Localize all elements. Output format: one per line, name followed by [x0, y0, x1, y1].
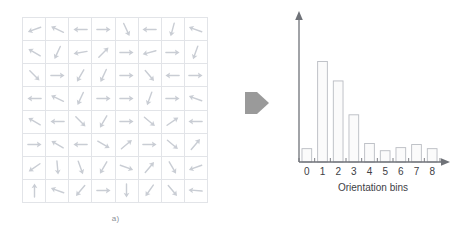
histogram-bar	[333, 81, 343, 162]
x-axis-tick-label: 1	[320, 166, 326, 177]
gradient-arrow-icon	[141, 44, 158, 61]
x-axis-tick-label: 3	[351, 166, 357, 177]
histogram-bar	[302, 149, 312, 162]
histogram-tick-labels: 012345678	[304, 166, 435, 177]
histogram-bar	[412, 145, 422, 162]
grid-cell	[92, 87, 115, 110]
gradient-arrow-icon	[95, 159, 112, 176]
grid-cell	[69, 180, 92, 203]
grid-cell	[139, 180, 162, 203]
gradient-arrow-icon	[187, 21, 204, 38]
gradient-arrow-icon	[187, 90, 204, 107]
gradient-arrow-icon	[49, 44, 66, 61]
gradient-arrow-icon	[26, 113, 43, 130]
grid-cell	[46, 134, 69, 157]
gradient-arrow-icon	[49, 67, 66, 84]
grid-cell	[69, 87, 92, 110]
histogram-bars	[302, 61, 437, 162]
grid-cell	[46, 64, 69, 87]
gradient-arrow-icon	[95, 67, 112, 84]
grid-cell	[185, 18, 208, 41]
grid-cell	[23, 157, 46, 180]
grid-cell	[162, 87, 185, 110]
grid-cell	[116, 134, 139, 157]
gradient-arrow-icon	[49, 90, 66, 107]
gradient-arrow-icon	[141, 113, 158, 130]
grid-cell	[69, 134, 92, 157]
grid-cell	[23, 134, 46, 157]
gradient-arrow-icon	[118, 67, 135, 84]
grid-cell	[162, 157, 185, 180]
gradient-arrow-icon	[26, 182, 43, 199]
gradient-arrow-icon	[26, 90, 43, 107]
gradient-arrow-icon	[187, 159, 204, 176]
histogram-bar	[380, 151, 390, 162]
chevron-right-icon	[243, 88, 277, 118]
gradient-arrow-icon	[26, 21, 43, 38]
grid-cell	[46, 41, 69, 64]
gradient-arrow-icon	[49, 113, 66, 130]
gradient-arrow-icon	[141, 67, 158, 84]
grid-cell	[185, 180, 208, 203]
gradient-arrow-icon	[141, 21, 158, 38]
gradient-arrow-icon	[164, 136, 181, 153]
gradient-arrow-icon	[72, 136, 89, 153]
histogram-bar	[318, 61, 328, 162]
grid-cell	[139, 41, 162, 64]
gradient-arrow-icon	[141, 90, 158, 107]
grid-cell	[139, 64, 162, 87]
grid-cell	[116, 111, 139, 134]
histogram-bar	[396, 148, 406, 162]
gradient-arrow-icon	[72, 90, 89, 107]
x-axis-title: Orientation bins	[338, 182, 408, 193]
grid-cell	[116, 180, 139, 203]
grid-cell	[23, 64, 46, 87]
grid-cell	[139, 111, 162, 134]
gradient-arrow-icon	[118, 44, 135, 61]
histogram-bar	[365, 144, 375, 162]
gradient-arrow-icon	[72, 21, 89, 38]
grid-cell	[185, 41, 208, 64]
gradient-arrow-icon	[72, 182, 89, 199]
arrow-grid	[22, 17, 208, 203]
grid-cell	[116, 18, 139, 41]
grid-cell	[185, 134, 208, 157]
gradient-arrow-icon	[26, 136, 43, 153]
grid-cell	[46, 87, 69, 110]
gradient-arrow-icon	[118, 159, 135, 176]
grid-cell	[69, 64, 92, 87]
grid-cell	[92, 111, 115, 134]
panel-a-gradient-grid: a)	[0, 0, 231, 241]
gradient-arrow-icon	[141, 136, 158, 153]
grid-cell	[69, 157, 92, 180]
grid-cell	[185, 87, 208, 110]
x-axis-tick-label: 5	[382, 166, 388, 177]
grid-cell	[46, 157, 69, 180]
gradient-arrow-icon	[72, 113, 89, 130]
gradient-arrow-icon	[72, 67, 89, 84]
gradient-arrow-icon	[95, 136, 112, 153]
grid-cell	[139, 157, 162, 180]
x-axis-tick-label: 0	[304, 166, 310, 177]
x-axis-tick-label: 4	[367, 166, 373, 177]
y-axis-arrowhead	[295, 11, 303, 20]
gradient-arrow-icon	[95, 182, 112, 199]
gradient-arrow-icon	[118, 90, 135, 107]
grid-cell	[116, 157, 139, 180]
grid-cell	[92, 41, 115, 64]
gradient-arrow-icon	[49, 182, 66, 199]
grid-cell	[185, 111, 208, 134]
gradient-arrow-icon	[26, 44, 43, 61]
grid-cell	[162, 111, 185, 134]
x-axis-arrowhead	[441, 158, 450, 166]
grid-cell	[46, 180, 69, 203]
histogram-bar	[427, 149, 437, 162]
gradient-arrow-icon	[164, 90, 181, 107]
gradient-arrow-icon	[164, 21, 181, 38]
grid-cell	[69, 41, 92, 64]
x-axis-tick-label: 2	[335, 166, 341, 177]
grid-cell	[92, 18, 115, 41]
gradient-arrow-icon	[187, 67, 204, 84]
gradient-arrow-icon	[49, 159, 66, 176]
histogram-bar	[349, 115, 359, 162]
